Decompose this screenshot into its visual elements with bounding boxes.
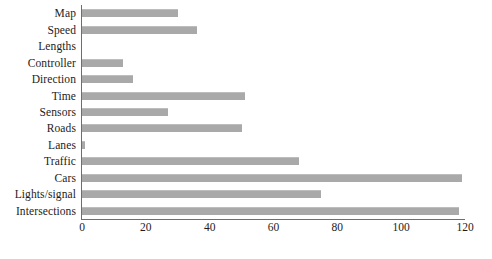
category-label: Controller	[0, 57, 76, 69]
x-tick-label: 0	[79, 220, 85, 234]
y-axis-category-labels: MapSpeedLengthsControllerDirectionTimeSe…	[0, 5, 76, 219]
bar	[82, 141, 85, 149]
bar	[82, 124, 242, 132]
bar	[82, 59, 123, 67]
category-label: Lengths	[0, 40, 76, 52]
x-tick-label: 80	[332, 220, 344, 234]
x-axis-tick-labels: 020406080100120	[82, 220, 465, 240]
bar	[82, 9, 178, 17]
bar-chart: MapSpeedLengthsControllerDirectionTimeSe…	[0, 0, 492, 259]
category-label: Cars	[0, 172, 76, 184]
x-tick-label: 120	[456, 220, 473, 234]
category-label: Map	[0, 7, 76, 19]
category-label: Lanes	[0, 139, 76, 151]
category-label: Speed	[0, 24, 76, 36]
bar	[82, 157, 299, 165]
x-tick-label: 60	[268, 220, 280, 234]
x-tick-label: 40	[204, 220, 216, 234]
category-label: Lights/signal	[0, 188, 76, 200]
category-label: Time	[0, 90, 76, 102]
bar	[82, 174, 462, 182]
plot-area	[82, 5, 465, 219]
bar	[82, 92, 245, 100]
bar	[82, 75, 133, 83]
bar	[82, 190, 321, 198]
x-tick-label: 20	[140, 220, 152, 234]
x-tick-label: 100	[393, 220, 410, 234]
category-label: Sensors	[0, 106, 76, 118]
bar	[82, 108, 168, 116]
category-label: Traffic	[0, 155, 76, 167]
category-label: Intersections	[0, 205, 76, 217]
bar	[82, 207, 459, 215]
bar	[82, 26, 197, 34]
category-label: Roads	[0, 122, 76, 134]
category-label: Direction	[0, 73, 76, 85]
